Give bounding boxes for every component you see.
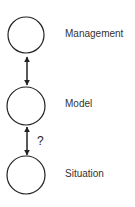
situation-node: [7, 156, 45, 194]
model-label: Model: [65, 98, 92, 110]
model-node: [7, 87, 45, 125]
management-label: Management: [65, 28, 123, 40]
situation-label: Situation: [65, 168, 104, 180]
uncertainty-mark: ?: [37, 134, 44, 148]
management-node: [8, 17, 44, 53]
